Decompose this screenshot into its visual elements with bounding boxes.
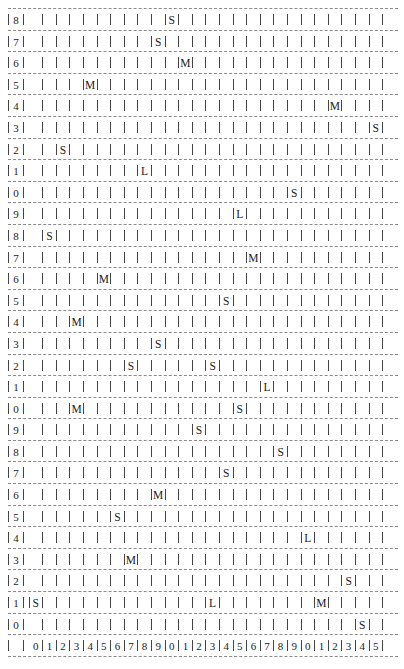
cell-divider <box>301 144 302 155</box>
cell-divider <box>233 273 234 284</box>
cell-divider <box>137 316 138 327</box>
cell-divider <box>328 360 329 371</box>
cell-divider <box>287 273 288 284</box>
cell-divider <box>382 619 383 630</box>
cell-divider <box>56 360 57 371</box>
cell-divider <box>287 424 288 435</box>
cell-divider <box>42 316 43 327</box>
cell-divider <box>83 316 84 327</box>
cell-divider <box>110 208 111 219</box>
cell-divider <box>165 381 166 392</box>
cell-divider <box>301 554 302 565</box>
cell-divider <box>260 273 261 284</box>
cell-divider <box>328 57 329 68</box>
cell-divider <box>192 338 193 349</box>
cell-divider <box>341 252 342 263</box>
cell-divider <box>260 338 261 349</box>
cell-divider <box>219 14 220 25</box>
cell-divider <box>83 295 84 306</box>
cell-divider <box>83 230 84 241</box>
cell-divider <box>233 532 234 543</box>
cell-divider <box>124 187 125 198</box>
cell-divider <box>97 619 98 630</box>
cell-divider <box>233 619 234 630</box>
cell-divider <box>219 446 220 457</box>
cell-divider <box>233 79 234 90</box>
cell-divider <box>178 295 179 306</box>
cell-divider <box>246 295 247 306</box>
column-label: 8 <box>138 639 152 653</box>
cell-divider <box>233 554 234 565</box>
grid-row: 5S <box>0 290 404 311</box>
cell-divider <box>273 424 274 435</box>
cell-divider <box>314 79 315 90</box>
cell-divider <box>192 100 193 111</box>
row-label: 1 <box>10 164 22 178</box>
marker-s: S <box>287 186 301 200</box>
cell-divider <box>341 316 342 327</box>
cell-divider <box>8 122 9 133</box>
cell-divider <box>110 597 111 608</box>
cell-divider <box>355 575 356 586</box>
cell-divider <box>8 619 9 630</box>
cell-divider <box>328 122 329 133</box>
cell-divider <box>151 467 152 478</box>
cell-divider <box>382 36 383 47</box>
cell-divider <box>124 230 125 241</box>
cell-divider <box>219 403 220 414</box>
cell-divider <box>273 338 274 349</box>
cell-divider <box>97 187 98 198</box>
cell-divider <box>151 122 152 133</box>
cell-divider <box>124 511 125 522</box>
cell-divider <box>341 57 342 68</box>
cell-divider <box>56 403 57 414</box>
cell-divider <box>355 554 356 565</box>
cell-divider <box>287 295 288 306</box>
cell-divider <box>355 511 356 522</box>
cell-divider <box>328 467 329 478</box>
cell-divider <box>124 36 125 47</box>
cell-divider <box>23 100 24 111</box>
cell-divider <box>205 252 206 263</box>
cell-divider <box>341 554 342 565</box>
cell-divider <box>124 467 125 478</box>
marker-l: L <box>138 164 152 178</box>
cell-divider <box>341 36 342 47</box>
cell-divider <box>23 165 24 176</box>
column-label: 3 <box>206 639 220 653</box>
cell-divider <box>83 511 84 522</box>
cell-divider <box>165 252 166 263</box>
cell-divider <box>178 403 179 414</box>
cell-divider <box>246 208 247 219</box>
column-label: 0 <box>29 639 43 653</box>
cell-divider <box>328 273 329 284</box>
cell-divider <box>8 165 9 176</box>
cell-divider <box>42 554 43 565</box>
cell-divider <box>124 403 125 414</box>
row-label: 9 <box>10 423 22 437</box>
cell-divider <box>192 208 193 219</box>
cell-divider <box>273 57 274 68</box>
cell-divider <box>301 79 302 90</box>
cell-divider <box>23 230 24 241</box>
cell-divider <box>219 316 220 327</box>
cell-divider <box>56 187 57 198</box>
cell-divider <box>382 165 383 176</box>
cell-divider <box>219 511 220 522</box>
cell-divider <box>124 532 125 543</box>
cell-divider <box>260 187 261 198</box>
cell-divider <box>192 467 193 478</box>
column-label: 6 <box>111 639 125 653</box>
cell-divider <box>273 597 274 608</box>
cell-divider <box>355 489 356 500</box>
marker-s: S <box>219 466 233 480</box>
cell-divider <box>382 597 383 608</box>
cell-divider <box>260 511 261 522</box>
cell-divider <box>165 554 166 565</box>
cell-divider <box>97 489 98 500</box>
marker-s: S <box>29 596 43 610</box>
cell-divider <box>178 511 179 522</box>
cell-divider <box>110 360 111 371</box>
cell-divider <box>192 187 193 198</box>
marker-s: S <box>219 294 233 308</box>
